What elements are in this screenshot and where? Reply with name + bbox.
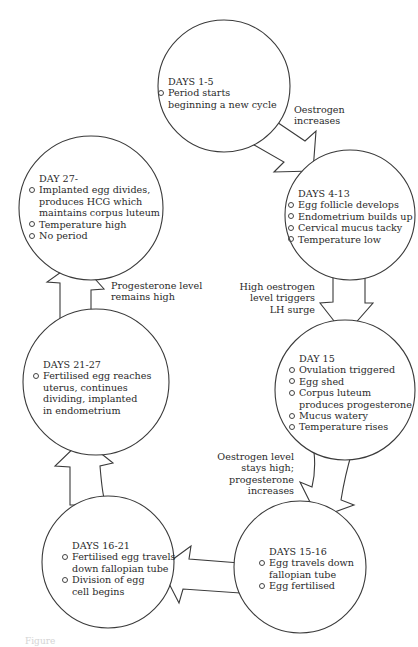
bullet-icon (29, 187, 35, 193)
transition-label-oestrogen-increases: Oestrogenincreases (294, 104, 345, 127)
stage-item: Fertilised egg travelsdown fallopian tub… (62, 551, 176, 574)
stage-item: Ovulation triggered (289, 364, 412, 375)
bullet-icon (33, 373, 39, 379)
bullet-icon (259, 560, 265, 566)
transition-label-progesterone-high: Progesterone levelremains high (111, 280, 202, 303)
stage-item: Cervical mucus tacky (288, 222, 413, 233)
stage-days1-5: DAYS 1-5 Period startsbeginning a new cy… (158, 76, 277, 110)
bullet-icon (289, 424, 295, 430)
stage-item: Temperature rises (289, 421, 412, 432)
stage-item: Egg fertilised (259, 580, 354, 591)
stage-title: DAY 15 (289, 353, 412, 364)
figure-caption: Figure (25, 636, 55, 646)
stage-title: DAYS 15-16 (259, 546, 354, 557)
bullet-icon (288, 236, 294, 242)
stage-item: Temperature high (29, 219, 160, 230)
stage-item: Period startsbeginning a new cycle (158, 87, 277, 110)
stage-days15-16: DAYS 15-16 Egg travels downfallopian tub… (259, 546, 354, 592)
stage-item: Egg shed (289, 376, 412, 387)
stage-item: Egg travels downfallopian tube (259, 557, 354, 580)
stage-item: Corpus luteumproduces progesterone (289, 387, 412, 410)
stage-item: Egg follicle develops (288, 199, 413, 210)
stage-item: Fertilised egg reachesuterus, continuesd… (33, 370, 151, 416)
bullet-icon (259, 583, 265, 589)
stage-item: No period (29, 230, 160, 241)
bullet-icon (62, 577, 68, 583)
stage-item: Implanted egg divides,produces HCG which… (29, 184, 160, 218)
stage-day15: DAY 15 Ovulation triggered Egg shed Corp… (289, 353, 412, 433)
transition-label-lh-surge: High oestrogenlevel triggersLH surge (240, 281, 315, 315)
bullet-icon (289, 378, 295, 384)
stage-title: DAY 27- (29, 173, 160, 184)
transition-label-progesterone-increases: Oestrogen levelstays high;progesteronein… (217, 451, 294, 497)
bullet-icon (158, 90, 164, 96)
stage-title: DAYS 16-21 (62, 540, 176, 551)
bullet-icon (288, 225, 294, 231)
bullet-icon (289, 367, 295, 373)
stage-item: Endometrium builds up (288, 211, 413, 222)
bullet-icon (289, 413, 295, 419)
stage-title: DAYS 4-13 (288, 188, 413, 199)
stage-days21-27: DAYS 21-27 Fertilised egg reachesuterus,… (33, 359, 151, 416)
stage-item: Mucus watery (289, 410, 412, 421)
stage-item: Division of eggcell begins (62, 574, 176, 597)
stage-day27: DAY 27- Implanted egg divides,produces H… (29, 173, 160, 241)
stage-days4-13: DAYS 4-13 Egg follicle develops Endometr… (288, 188, 413, 245)
bullet-icon (29, 221, 35, 227)
bullet-icon (288, 202, 294, 208)
stage-days16-21: DAYS 16-21 Fertilised egg travelsdown fa… (62, 540, 176, 597)
bullet-icon (288, 213, 294, 219)
bullet-icon (62, 554, 68, 560)
stage-title: DAYS 1-5 (158, 76, 277, 87)
stage-title: DAYS 21-27 (33, 359, 151, 370)
bullet-icon (29, 233, 35, 239)
bullet-icon (289, 390, 295, 396)
stage-item: Temperature low (288, 234, 413, 245)
